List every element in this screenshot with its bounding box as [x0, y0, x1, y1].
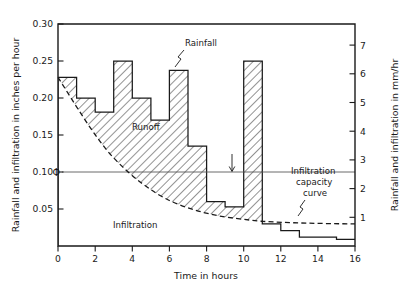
- y-right-tick-label-1: 1: [360, 212, 366, 223]
- y-tick-label-0-25: 0.25: [33, 55, 54, 66]
- y-tick-label-0-10: 0.10: [33, 166, 54, 177]
- x-tick-label-0: 0: [55, 253, 61, 264]
- x-tick-label-14: 14: [312, 253, 324, 264]
- chart-figure: Φ 0.30 0.25 0.20 0.15 0.10 0.05 1 2 3 4 …: [0, 0, 415, 290]
- y-right-tick-label-6: 6: [360, 68, 366, 79]
- hyetograph-svg: Φ 0.30 0.25 0.20 0.15 0.10 0.05 1 2 3 4 …: [0, 0, 415, 290]
- annotation-capacity-line3: curve: [303, 188, 327, 198]
- annotation-capacity-line1: Infiltration: [291, 166, 335, 176]
- y-tick-label-0-20: 0.20: [33, 92, 54, 103]
- x-tick-label-12: 12: [275, 253, 287, 264]
- annotation-runoff: Runoff: [132, 122, 161, 132]
- y-tick-label-0-30: 0.30: [33, 18, 54, 29]
- y-right-tick-label-5: 5: [360, 97, 366, 108]
- y-right-tick-label-2: 2: [360, 183, 366, 194]
- annotation-infiltration: Infiltration: [113, 220, 157, 230]
- x-tick-label-16: 16: [349, 253, 361, 264]
- y-tick-label-0-15: 0.15: [33, 129, 54, 140]
- x-axis-title: Time in hours: [173, 270, 238, 281]
- x-tick-label-8: 8: [204, 253, 210, 264]
- x-tick-label-6: 6: [166, 253, 172, 264]
- x-tick-label-10: 10: [238, 253, 250, 264]
- y-right-tick-label-4: 4: [360, 126, 366, 137]
- annotation-rainfall: Rainfall: [185, 38, 217, 48]
- y-axis-right-title: Rainfall and infiltration in mm/hr: [389, 59, 400, 212]
- annotation-capacity-line2: capacity: [296, 177, 332, 187]
- y-axis-left-title: Rainfall and infiltration in inches per …: [10, 38, 21, 233]
- y-tick-label-0-05: 0.05: [33, 203, 54, 214]
- y-right-tick-label-7: 7: [360, 40, 366, 51]
- y-right-tick-label-3: 3: [360, 154, 366, 165]
- x-tick-label-4: 4: [129, 253, 135, 264]
- x-tick-label-2: 2: [92, 253, 98, 264]
